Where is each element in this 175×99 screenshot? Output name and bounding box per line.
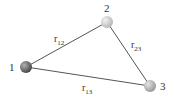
- edge-r12: [26, 22, 107, 67]
- edge-r12-label: r12: [54, 33, 65, 47]
- edge-r13-label: r13: [82, 82, 93, 96]
- edge-r23-label: r23: [131, 39, 142, 53]
- three-particle-diagram: 1 2 3 r12 r23 r13: [0, 0, 175, 99]
- edge-r23: [107, 22, 150, 86]
- edge-r13: [26, 67, 150, 86]
- particle-1-label: 1: [9, 61, 15, 73]
- particle-1: [20, 61, 32, 73]
- particle-3-label: 3: [160, 80, 166, 92]
- particle-2-label: 2: [104, 2, 110, 14]
- particle-2: [101, 16, 113, 28]
- particle-3: [144, 80, 156, 92]
